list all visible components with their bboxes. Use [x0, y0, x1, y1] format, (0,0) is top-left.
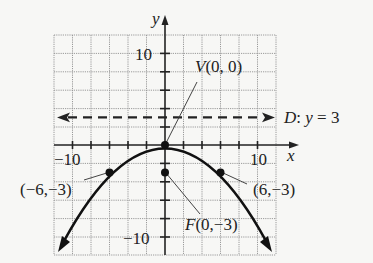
x-axis [54, 141, 299, 149]
directrix-label: D: y = 3 [283, 108, 339, 127]
x-tick-neg10: −10 [54, 150, 81, 169]
y-axis [160, 15, 170, 255]
point-left-label: (−6,−3) [20, 180, 72, 199]
point-neg6-neg3 [106, 169, 114, 177]
parabola-chart: y x 10 −10 −10 10 V(0, 0) (−6,−3) (6,−3)… [0, 0, 373, 263]
vertex-label: V(0, 0) [195, 57, 242, 76]
y-tick-neg10: −10 [123, 229, 150, 248]
vertex-point [161, 141, 169, 149]
x-tick-10: 10 [250, 150, 267, 169]
y-tick-10: 10 [135, 45, 152, 64]
x-axis-label: x [286, 146, 295, 165]
focus-point [161, 169, 169, 177]
focus-label: F(0,−3) [184, 215, 238, 234]
point-right-label: (6,−3) [253, 180, 295, 199]
y-axis-label: y [150, 9, 160, 28]
point-6-neg3 [217, 169, 225, 177]
directrix-line [57, 113, 275, 123]
